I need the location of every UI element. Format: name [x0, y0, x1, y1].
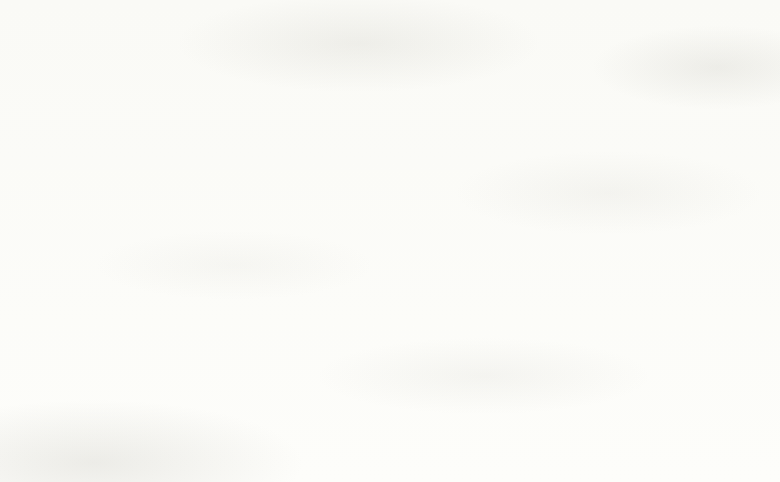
y-axis-category-label: New Economic Models — [0, 183, 178, 195]
x-axis-line — [190, 410, 746, 411]
bar-row — [190, 53, 746, 81]
legend-item[interactable]: 2 — [355, 459, 374, 471]
bar-segment — [392, 177, 518, 205]
bar-row — [190, 363, 746, 391]
bar-segment — [190, 363, 218, 391]
bar-segment — [717, 53, 746, 81]
bar-segment — [524, 239, 746, 267]
bar-segment — [683, 301, 746, 329]
y-axis-category-label: Technological Innovations — [0, 369, 178, 381]
legend-swatch-icon — [175, 461, 183, 469]
scan-smudge-top — [30, 46, 180, 56]
bar-segment — [570, 301, 683, 329]
bar-segment — [580, 363, 746, 391]
x-axis-tick-label: 100% — [731, 414, 760, 426]
bar-segment — [530, 115, 746, 143]
legend-label: 6 — [439, 459, 445, 471]
legend-item[interactable]: 1: Disagree Strongly — [175, 459, 292, 471]
bar-row — [190, 115, 746, 143]
legend-label: 2 — [368, 459, 374, 471]
legend-label: 7: Agree Strongly — [516, 459, 604, 471]
y-axis-category-label: Government Regulation — [0, 245, 178, 257]
y-axis-category-label: Market Mechanisms — [0, 307, 178, 319]
bar-segment — [190, 177, 218, 205]
legend-item[interactable]: 7: Agree Strongly — [503, 459, 604, 471]
x-axis-tick-label: 20% — [290, 414, 313, 426]
bar-segment — [190, 53, 272, 81]
bar-row — [190, 239, 746, 267]
legend-swatch-icon — [355, 461, 363, 469]
plot-area — [190, 38, 746, 410]
x-axis-tick-label: 40% — [401, 414, 424, 426]
bar-row — [190, 177, 746, 205]
x-axis-tick-label: 60% — [512, 414, 535, 426]
y-axis-category-label: Limit Population Growth — [0, 59, 178, 71]
bar-segment — [190, 115, 218, 143]
bar-segment — [632, 53, 717, 81]
bar-segment — [452, 363, 580, 391]
legend-swatch-icon — [503, 461, 511, 469]
legend-swatch-icon — [426, 461, 434, 469]
chart-legend: 1: Disagree Strongly267: Agree Strongly — [0, 455, 780, 475]
x-axis-tick-label: 0% — [182, 414, 199, 426]
legend-item[interactable]: 6 — [426, 459, 445, 471]
bar-segment — [403, 115, 530, 143]
bar-row — [190, 301, 746, 329]
bar-segment — [518, 177, 746, 205]
bar-segment — [228, 301, 273, 329]
x-axis-tick-label: 80% — [623, 414, 646, 426]
bar-segment — [190, 239, 212, 267]
chart-title: Effectiveness of Measures for Tackling C… — [0, 17, 780, 32]
legend-label: 1: Disagree Strongly — [188, 459, 292, 471]
bar-segment — [272, 53, 361, 81]
bar-segment — [400, 239, 524, 267]
y-axis-category-label: Lifestyle Changes — [0, 121, 178, 133]
bar-segment — [190, 301, 228, 329]
